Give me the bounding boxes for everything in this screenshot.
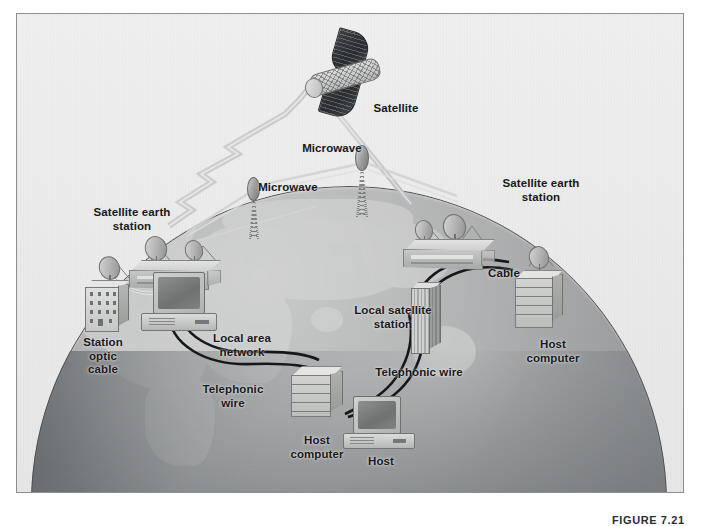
figure-caption: FIGURE 7.21 bbox=[612, 514, 685, 526]
office-window bbox=[98, 310, 101, 314]
rack-bay-line bbox=[516, 314, 552, 315]
rack-bay-line bbox=[516, 305, 552, 306]
microwave-tower-icon-right[interactable] bbox=[349, 145, 379, 217]
office-window bbox=[106, 310, 109, 314]
host-power-indicator bbox=[393, 439, 406, 443]
host-monitor-screen bbox=[353, 396, 401, 434]
station-window-row-2 bbox=[411, 262, 473, 264]
rack-bay-line bbox=[516, 287, 552, 288]
label-host-computer-left: Host computer bbox=[272, 434, 362, 461]
station-face-right bbox=[403, 249, 483, 270]
office-window bbox=[113, 310, 116, 314]
label-host-computer-right: Host computer bbox=[508, 338, 598, 365]
office-window bbox=[109, 319, 112, 323]
satellite-dish-icon-right-a[interactable] bbox=[415, 220, 433, 241]
satellite-dish-icon-left-a[interactable] bbox=[145, 236, 167, 261]
lan-monitor-screen bbox=[153, 272, 205, 314]
label-satellite-earth-station-right: Satellite earth station bbox=[486, 177, 596, 204]
label-microwave-right: Microwave bbox=[289, 142, 375, 156]
station-window-row-1 bbox=[411, 255, 473, 259]
station-side-right bbox=[481, 250, 495, 266]
microwave-mast-left bbox=[249, 199, 259, 239]
lan-power-indicator bbox=[195, 320, 209, 324]
earth-station-building-icon-right[interactable] bbox=[399, 214, 503, 272]
lan-monitor-glass bbox=[158, 277, 200, 309]
label-station-optic-cable: Station optic cable bbox=[76, 336, 130, 377]
label-host: Host bbox=[357, 455, 405, 469]
rack-bay-line bbox=[292, 411, 330, 412]
figure-page: Satellite Microwave Microwave Satellite … bbox=[0, 0, 701, 526]
office-window bbox=[90, 292, 93, 296]
label-satellite-earth-station-left: Satellite earth station bbox=[77, 206, 187, 233]
lan-drive-slot bbox=[149, 318, 175, 319]
rack-bay-line bbox=[292, 393, 330, 394]
satellite-dish-icon-right-host[interactable] bbox=[529, 246, 549, 269]
rack-side bbox=[330, 371, 343, 411]
satellite-dish-icon-optic-station[interactable] bbox=[99, 256, 120, 280]
office-building-icon-optic-station[interactable] bbox=[79, 256, 135, 334]
office-window bbox=[90, 301, 93, 305]
office-window bbox=[113, 301, 116, 305]
label-telephonic-wire-right: Telephonic wire bbox=[364, 366, 474, 380]
office-window bbox=[106, 301, 109, 305]
rack-bay-line bbox=[292, 384, 330, 385]
office-window bbox=[90, 319, 93, 323]
label-cable: Cable bbox=[477, 267, 531, 281]
office-window bbox=[113, 292, 116, 296]
rack-side bbox=[552, 274, 563, 321]
server-rack-icon-right[interactable] bbox=[513, 246, 575, 338]
rack-front bbox=[515, 278, 553, 328]
label-microwave-left: Microwave bbox=[245, 181, 331, 195]
network-diagram-figure: Satellite Microwave Microwave Satellite … bbox=[16, 13, 684, 493]
label-local-area-network: Local area network bbox=[199, 332, 285, 359]
rack-bay-line bbox=[292, 402, 330, 403]
host-monitor-glass bbox=[358, 401, 396, 429]
label-telephonic-wire-left: Telephonic wire bbox=[189, 383, 277, 410]
crt-computer-icon-lan[interactable] bbox=[141, 272, 217, 334]
office-window bbox=[98, 319, 103, 326]
office-window bbox=[106, 292, 109, 296]
lan-drive-slot bbox=[149, 321, 175, 322]
label-satellite: Satellite bbox=[361, 102, 431, 116]
office-window bbox=[90, 310, 93, 314]
office-side bbox=[118, 284, 129, 326]
satellite-dish-icon-right-b[interactable] bbox=[443, 214, 466, 240]
satellite-dish-icon-left-b[interactable] bbox=[185, 240, 203, 261]
lan-drive-slot bbox=[149, 324, 175, 325]
rack-bay-line bbox=[516, 296, 552, 297]
office-window bbox=[98, 301, 101, 305]
office-window bbox=[98, 292, 101, 296]
label-local-satellite-station: Local satellite station bbox=[343, 304, 443, 331]
microwave-mast-right bbox=[356, 169, 368, 217]
